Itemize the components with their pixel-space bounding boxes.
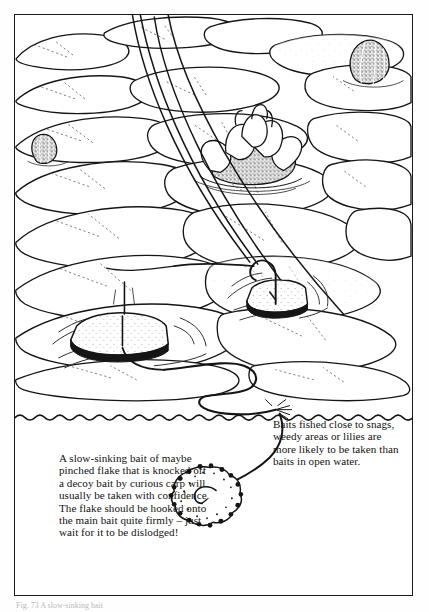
caption-right-baits-near-snags: Baits fished close to snags, weedy areas…	[273, 418, 401, 468]
illustration-frame: A slow-sinking bait of maybe pinched fla…	[14, 14, 413, 596]
figure-caption: Fig. 73 A slow-sinking bait	[16, 601, 316, 611]
book-page: A slow-sinking bait of maybe pinched fla…	[0, 0, 429, 612]
caption-left-slow-sinking-bait: A slow-sinking bait of maybe pinched fla…	[59, 452, 211, 539]
